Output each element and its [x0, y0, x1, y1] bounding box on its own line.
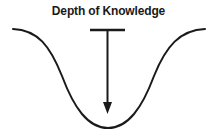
- knowledge-depth-curve: [13, 29, 205, 128]
- depth-of-knowledge-figure: [0, 0, 217, 138]
- diagram-canvas: Depth of Knowledge: [0, 0, 217, 138]
- arrow-head-icon: [103, 102, 112, 114]
